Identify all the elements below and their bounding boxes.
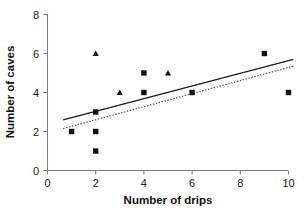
x-tick-label-4: 4	[141, 177, 147, 189]
x-tick-label-0: 0	[44, 177, 50, 189]
data-point-square	[93, 129, 98, 134]
y-tick-label-0: 0	[33, 165, 39, 177]
y-axis-tick-labels: 0 2 4 6 8	[33, 9, 39, 177]
data-markers-layer	[69, 50, 291, 153]
dotted-trendline	[63, 66, 293, 128]
data-point-square	[141, 70, 146, 75]
y-tick-label-6: 6	[33, 48, 39, 60]
data-point-triangle	[165, 70, 171, 76]
x-tick-label-8: 8	[237, 177, 243, 189]
x-axis-tick-labels: 0 2 4 6 8 10	[44, 177, 294, 189]
y-tick-label-8: 8	[33, 9, 39, 21]
data-point-square	[189, 90, 194, 95]
data-point-square	[93, 148, 98, 153]
x-axis-ticks	[48, 171, 289, 175]
data-point-triangle	[93, 50, 99, 56]
y-axis-title: Number of caves	[4, 46, 16, 139]
x-axis-title: Number of drips	[124, 194, 213, 206]
data-point-square	[286, 90, 291, 95]
data-point-triangle	[117, 89, 123, 95]
scatter-plot-canvas: 0 2 4 6 8 0 2 4 6 8 10 Number of drips N…	[0, 0, 304, 211]
y-axis-ticks	[44, 15, 48, 171]
data-point-square	[93, 109, 98, 114]
x-tick-label-2: 2	[93, 177, 99, 189]
x-tick-label-10: 10	[282, 177, 294, 189]
y-tick-label-2: 2	[33, 126, 39, 138]
data-point-square	[262, 51, 267, 56]
y-tick-label-4: 4	[33, 87, 39, 99]
chart-figure: 0 2 4 6 8 0 2 4 6 8 10 Number of drips N…	[0, 0, 304, 211]
x-tick-label-6: 6	[189, 177, 195, 189]
data-point-square	[141, 90, 146, 95]
trendlines-layer	[63, 59, 293, 128]
data-point-square	[69, 129, 74, 134]
